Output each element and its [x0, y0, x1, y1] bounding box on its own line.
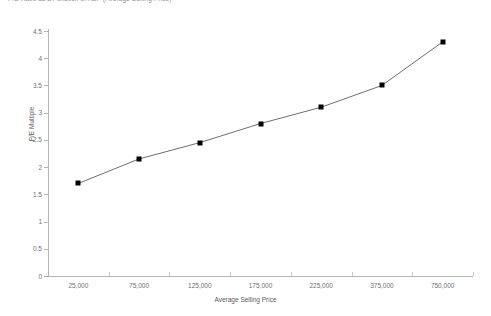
data-point	[379, 83, 384, 88]
data-point	[319, 105, 324, 110]
data-point	[258, 121, 263, 126]
data-point	[440, 39, 445, 44]
data-point	[76, 181, 81, 186]
series-line	[0, 0, 491, 316]
chart-container: P/E Ratio as a Function of ASP (Average …	[0, 0, 491, 316]
data-point	[137, 156, 142, 161]
data-point	[197, 140, 202, 145]
